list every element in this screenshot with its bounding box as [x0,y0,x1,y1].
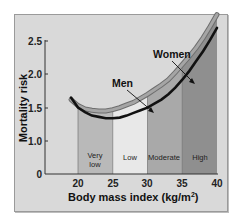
bmi-mortality-chart: 2.5 2.0 1.5 1.0 0 20 25 30 35 40 Body ma… [0,0,240,223]
zone-label-very-low-2: low [89,160,101,169]
y-tick-2.0: 2.0 [28,69,42,80]
zone-label-moderate: Moderate [148,153,180,162]
zone-label-high: High [192,153,207,162]
x-tick-20: 20 [72,178,84,189]
y-tick-0: 0 [36,169,42,180]
zone-label-very-low-1: Very [87,151,102,160]
y-axis-label: Mortality risk [17,73,29,142]
y-tick-1.0: 1.0 [28,136,42,147]
x-tick-40: 40 [211,178,223,189]
y-tick-2.5: 2.5 [28,36,42,47]
men-annotation: Men [112,77,133,89]
x-tick-30: 30 [141,178,153,189]
x-tick-25: 25 [107,178,119,189]
x-tick-35: 35 [176,178,188,189]
y-tick-1.5: 1.5 [28,103,42,114]
zone-label-low: Low [123,153,137,162]
x-axis-label: Body mass index (kg/m2) [68,191,199,203]
women-annotation: Women [153,48,191,60]
